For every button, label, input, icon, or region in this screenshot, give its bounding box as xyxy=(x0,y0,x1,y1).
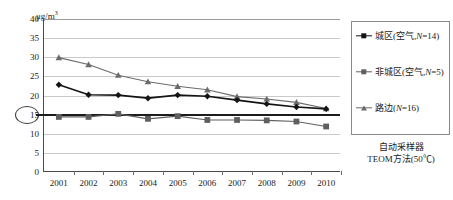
plot-inner: 0510152025303540200120022003200420052006… xyxy=(44,19,340,171)
x-axis-tick-label: 2008 xyxy=(258,178,276,188)
data-point-marker xyxy=(145,116,151,122)
data-point-marker xyxy=(86,114,92,120)
y-axis-tick-label: 5 xyxy=(35,148,40,157)
x-axis-tick-label: 2001 xyxy=(50,178,68,188)
series-square xyxy=(56,111,329,129)
y-axis-tick-label: 0 xyxy=(35,168,40,177)
data-point-marker xyxy=(294,119,300,125)
y-axis-tick-label: 10 xyxy=(30,129,39,138)
x-axis-tick-label: 2007 xyxy=(228,178,246,188)
y-axis-tick-label: 30 xyxy=(30,53,39,62)
x-axis-tick-label: 2005 xyxy=(169,178,187,188)
x-axis-tick-mark xyxy=(341,171,342,175)
legend-item-non-urban[interactable]: 非城区(空气,N=5) xyxy=(356,66,447,78)
data-point-marker xyxy=(323,124,329,130)
data-point-marker xyxy=(56,54,63,60)
data-point-marker xyxy=(174,92,180,98)
data-point-marker xyxy=(145,95,151,101)
x-axis-tick-label: 2009 xyxy=(287,178,305,188)
footer-line-2: TEOM方法(50℃) xyxy=(349,153,453,165)
legend-label-non-urban: 非城区(空气,N=5) xyxy=(375,67,444,77)
data-point-marker xyxy=(264,117,270,123)
legend-item-urban[interactable]: 城区(空气,N=14) xyxy=(356,30,447,42)
data-point-marker xyxy=(115,92,121,98)
x-axis-tick-label: 2004 xyxy=(139,178,157,188)
x-axis-tick-label: 2003 xyxy=(109,178,127,188)
triangle-marker-icon xyxy=(356,103,372,113)
footer-note: 自动采样器 TEOM方法(50℃) xyxy=(349,141,453,165)
data-point-marker xyxy=(234,117,240,123)
series-line xyxy=(59,114,326,127)
footer-line-1: 自动采样器 xyxy=(349,141,453,153)
series-diamond xyxy=(56,82,330,112)
diamond-marker-icon xyxy=(356,31,372,41)
data-point-marker xyxy=(56,82,62,88)
data-point-marker xyxy=(85,92,91,98)
x-axis-tick-label: 2006 xyxy=(198,178,216,188)
y-axis-tick-label: 40 xyxy=(30,15,39,24)
data-point-marker xyxy=(204,93,210,99)
y-axis-tick-label: 20 xyxy=(30,91,39,100)
y-axis-tick-label: 35 xyxy=(30,34,39,43)
legend-label-urban: 城区(空气,N=14) xyxy=(375,31,439,41)
data-point-marker xyxy=(264,101,270,107)
series-line xyxy=(59,58,326,109)
data-point-marker xyxy=(175,113,181,119)
x-axis-tick-label: 2010 xyxy=(317,178,335,188)
plot-area: 0510152025303540200120022003200420052006… xyxy=(43,19,340,172)
series-layer xyxy=(44,19,341,172)
data-point-marker xyxy=(115,111,121,117)
legend-item-roadside[interactable]: 路边(N=16) xyxy=(356,102,447,114)
chart-legend: 城区(空气,N=14) 非城区(空气,N=5) 路边(N=16) xyxy=(351,21,450,135)
square-marker-icon xyxy=(356,67,372,77)
legend-label-roadside: 路边(N=16) xyxy=(375,103,419,113)
series-triangle xyxy=(56,54,330,111)
y-axis-tick-label: 25 xyxy=(30,72,39,81)
chart-container: μg/m3 0510152025303540200120022003200420… xyxy=(0,0,453,200)
data-point-marker xyxy=(56,114,62,120)
data-point-marker xyxy=(204,117,210,123)
x-axis-tick-label: 2002 xyxy=(80,178,98,188)
